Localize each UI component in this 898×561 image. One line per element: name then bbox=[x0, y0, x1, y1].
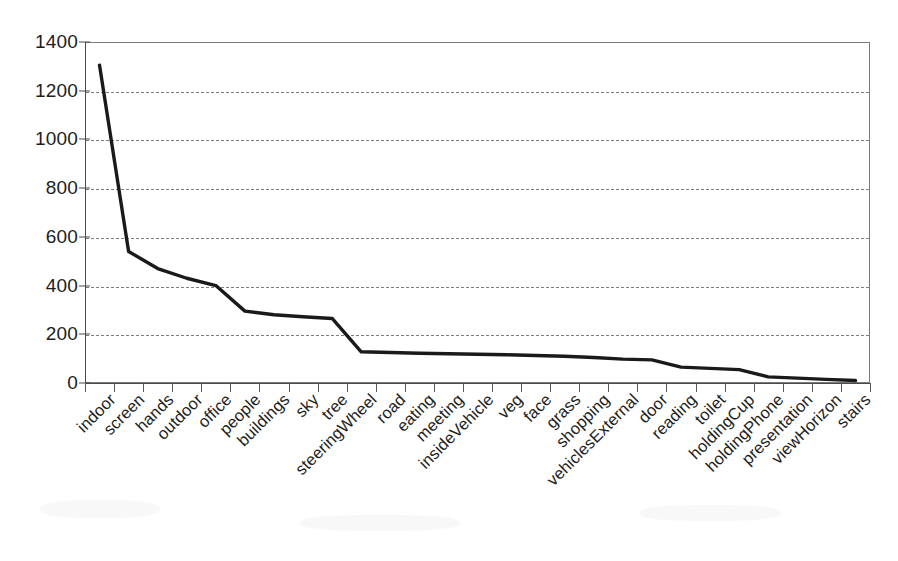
x-tick-mark-0 bbox=[85, 383, 86, 392]
x-tick-mark-15 bbox=[521, 383, 522, 392]
x-tick-mark-24 bbox=[783, 383, 784, 392]
x-axis-label-sky: sky bbox=[291, 390, 322, 421]
y-tick-label-0: 0 bbox=[67, 372, 78, 394]
x-tick-mark-25 bbox=[812, 383, 813, 392]
y-tick-mark-200 bbox=[79, 334, 90, 335]
x-tick-mark-21 bbox=[696, 383, 697, 392]
scan-artifact bbox=[640, 505, 780, 521]
line-chart: 0200400600800100012001400 indoorscreenha… bbox=[0, 0, 898, 561]
x-axis-label-stairs: stairs bbox=[833, 390, 875, 432]
y-tick-label-800: 800 bbox=[46, 177, 78, 199]
gridline-200 bbox=[86, 335, 869, 336]
x-tick-mark-20 bbox=[666, 383, 667, 392]
x-tick-mark-12 bbox=[434, 383, 435, 392]
x-tick-mark-13 bbox=[463, 383, 464, 392]
y-tick-mark-1000 bbox=[79, 139, 90, 140]
gridline-1200 bbox=[86, 92, 869, 93]
x-tick-mark-10 bbox=[376, 383, 377, 392]
y-tick-mark-600 bbox=[79, 236, 90, 237]
x-axis-line bbox=[85, 383, 870, 384]
x-tick-mark-27 bbox=[870, 383, 871, 392]
y-tick-mark-1400 bbox=[79, 42, 90, 43]
y-axis-line bbox=[85, 42, 86, 383]
y-tick-label-1000: 1000 bbox=[35, 128, 78, 150]
y-tick-mark-800 bbox=[79, 188, 90, 189]
x-tick-mark-11 bbox=[405, 383, 406, 392]
scan-artifact bbox=[300, 515, 460, 531]
y-tick-label-600: 600 bbox=[46, 226, 78, 248]
y-tick-label-1200: 1200 bbox=[35, 80, 78, 102]
x-tick-mark-18 bbox=[608, 383, 609, 392]
x-tick-mark-22 bbox=[725, 383, 726, 392]
x-tick-mark-1 bbox=[114, 383, 115, 392]
x-tick-mark-19 bbox=[637, 383, 638, 392]
y-tick-label-400: 400 bbox=[46, 275, 78, 297]
gridline-1000 bbox=[86, 140, 869, 141]
gridline-400 bbox=[86, 287, 869, 288]
x-tick-mark-17 bbox=[579, 383, 580, 392]
y-tick-label-200: 200 bbox=[46, 323, 78, 345]
x-axis-label-veg: veg bbox=[494, 390, 526, 422]
y-axis-ticks: 0200400600800100012001400 bbox=[0, 0, 78, 561]
x-tick-mark-8 bbox=[318, 383, 319, 392]
y-tick-mark-1200 bbox=[79, 90, 90, 91]
x-tick-mark-26 bbox=[841, 383, 842, 392]
x-tick-mark-9 bbox=[347, 383, 348, 392]
x-tick-mark-14 bbox=[492, 383, 493, 392]
y-tick-mark-400 bbox=[79, 285, 90, 286]
x-tick-mark-6 bbox=[259, 383, 260, 392]
plot-area bbox=[85, 42, 870, 383]
y-tick-label-1400: 1400 bbox=[35, 31, 78, 53]
x-tick-mark-4 bbox=[201, 383, 202, 392]
x-tick-mark-16 bbox=[550, 383, 551, 392]
x-tick-mark-7 bbox=[289, 383, 290, 392]
gridline-800 bbox=[86, 189, 869, 190]
x-tick-mark-5 bbox=[230, 383, 231, 392]
x-tick-mark-23 bbox=[754, 383, 755, 392]
x-tick-mark-2 bbox=[143, 383, 144, 392]
x-tick-mark-3 bbox=[172, 383, 173, 392]
gridline-600 bbox=[86, 238, 869, 239]
